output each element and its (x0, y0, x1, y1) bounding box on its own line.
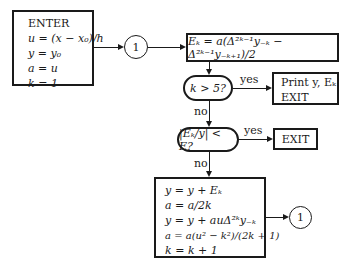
connector-label: 1 (297, 211, 304, 224)
connector-circle-bottom: 1 (289, 206, 312, 229)
connector-line (239, 139, 267, 140)
exit-label: EXIT (282, 133, 310, 146)
enter-box: ENTER u = (x − x₀)/h y = y₀ a = u k = 1 (12, 10, 94, 86)
ek-formula: Eₖ = a(Δ²ᵏ⁻¹y₋ₖ − Δ²ᵏ⁻¹y₋ₖ₊₁)/2 (188, 35, 337, 61)
decision-condition: |Eₖ/y| < E? (179, 127, 237, 153)
exit-box: EXIT (273, 128, 318, 150)
decision-error-check: |Eₖ/y| < E? (177, 127, 239, 152)
ek-box: Eₖ = a(Δ²ᵏ⁻¹y₋ₖ − Δ²ᵏ⁻¹y₋ₖ₊₁)/2 (186, 33, 339, 62)
decision-k-gt-5: k > 5? (183, 75, 233, 101)
yes-label: yes (240, 73, 258, 86)
update-line: a = a/2k (165, 198, 264, 213)
connector-line (209, 152, 210, 171)
print-line: EXIT (281, 90, 337, 105)
print-box: Print y, Eₖ EXIT (272, 72, 339, 105)
connector-circle-top: 1 (124, 35, 148, 59)
yes-label: yes (244, 124, 262, 137)
no-label: no (194, 105, 208, 118)
update-line: k = k + 1 (165, 243, 264, 258)
enter-line: y = y₀ (28, 46, 92, 61)
decision-condition: k > 5? (190, 82, 226, 95)
connector-line (94, 47, 118, 48)
update-line: y = y + Eₖ (165, 183, 264, 198)
connector-line (266, 217, 283, 218)
enter-line: a = u (28, 61, 92, 76)
connector-line (233, 88, 266, 89)
print-line: Print y, Eₖ (281, 75, 337, 90)
update-line: a = a(u² − k²)/(2k + 1) (165, 228, 264, 243)
connector-label: 1 (133, 41, 140, 54)
no-label: no (194, 157, 208, 170)
enter-line: k = 1 (28, 76, 92, 91)
update-box: y = y + Eₖ a = a/2k y = y + auΔ²ᵏy₋ₖ a =… (154, 177, 266, 258)
enter-title: ENTER (28, 16, 92, 31)
connector-line (148, 47, 180, 48)
connector-line (209, 101, 210, 121)
update-line: y = y + auΔ²ᵏy₋ₖ (165, 213, 264, 228)
enter-line: u = (x − x₀)/h (28, 31, 92, 46)
